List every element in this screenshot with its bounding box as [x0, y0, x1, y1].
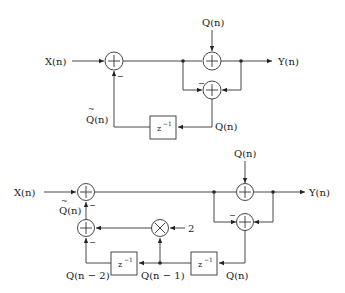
- q-out-label-2: Q(n): [226, 270, 249, 281]
- diagram-canvas: X(n) − Q(n) Y(n) − Q(n): [0, 0, 345, 293]
- multiplier: [152, 220, 169, 237]
- minus-sign-c: −: [229, 211, 236, 220]
- diagram-1: X(n) − Q(n) Y(n) − Q(n): [45, 17, 299, 139]
- svg-text:z: z: [157, 124, 161, 133]
- qtilde-label: Q(n): [86, 114, 109, 125]
- summing-junction-1: [105, 52, 123, 70]
- summing-junction-a: [78, 184, 95, 201]
- feedback-output-line: [222, 61, 241, 90]
- tilde-mark-2: ~: [61, 197, 68, 206]
- svg-text:−1: −1: [163, 120, 172, 127]
- svg-text:z: z: [118, 260, 122, 269]
- qtilde-label-2: Q(n): [59, 205, 82, 216]
- summing-junction-3: [203, 81, 221, 99]
- svg-text:−1: −1: [204, 256, 213, 263]
- feedback-output-line-2: [254, 192, 273, 222]
- input-label: X(n): [45, 56, 66, 67]
- svg-text:−1: −1: [124, 256, 133, 263]
- gain-label: 2: [188, 223, 194, 234]
- minus-sign: −: [117, 72, 124, 81]
- summing-junction-d: [78, 220, 95, 237]
- minus-sign-a: −: [89, 201, 96, 210]
- delay-block-1: z −1: [111, 252, 137, 275]
- summing-junction-2: [203, 52, 221, 70]
- delay-block: z −1: [150, 116, 176, 139]
- q-n1-label: Q(n − 1): [141, 270, 185, 281]
- q-n2-label: Q(n − 2): [66, 270, 110, 281]
- q-out-label: Q(n): [215, 121, 238, 132]
- output-label-2: Y(n): [308, 187, 330, 198]
- tilde-mark: ~: [88, 105, 95, 114]
- q-feedback-line-2: [219, 231, 245, 264]
- output-label: Y(n): [277, 56, 299, 67]
- delay-block-2: z −1: [191, 252, 217, 275]
- minus-sign-b: −: [89, 238, 96, 247]
- input-label-2: X(n): [14, 187, 35, 198]
- q-in-label-2: Q(n): [234, 148, 257, 159]
- svg-text:z: z: [198, 260, 202, 269]
- summing-junction-b: [237, 184, 254, 201]
- summing-junction-c: [237, 214, 254, 231]
- q-feedback-line: [178, 99, 212, 127]
- diagram-2: X(n) − Q(n) Y(n) − Q(n): [14, 148, 330, 281]
- q-in-label: Q(n): [202, 17, 225, 28]
